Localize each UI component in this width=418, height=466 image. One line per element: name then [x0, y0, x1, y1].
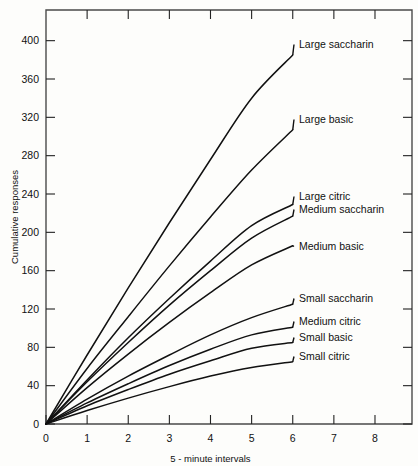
x-axis-tick-label: 4: [208, 432, 214, 444]
x-axis-tick-label: 8: [372, 432, 378, 444]
y-axis-tick-label: 320: [21, 111, 39, 123]
series-label: Large saccharin: [299, 38, 374, 50]
series-label: Medium basic: [299, 240, 364, 252]
series-leader-line: [293, 210, 294, 217]
series-medium-saccharin: Medium saccharin: [46, 203, 384, 424]
series-leader-line: [293, 120, 294, 130]
series-label: Small citric: [299, 350, 350, 362]
chart-canvas: 040801201602002402803203604000123456785 …: [0, 0, 418, 466]
y-axis-tick-label: 200: [21, 226, 39, 238]
series-leader-line: [293, 338, 294, 343]
x-axis-tick-label: 7: [331, 432, 337, 444]
y-axis-tick-label: 160: [21, 264, 39, 276]
series-label: Small basic: [299, 331, 353, 343]
y-axis-tick-label: 360: [21, 73, 39, 85]
series-large-citric: Large citric: [46, 190, 350, 424]
series-leader-line: [293, 322, 294, 328]
series-curve: [46, 246, 293, 424]
series-label: Large basic: [299, 113, 353, 125]
y-axis-tick-label: 240: [21, 188, 39, 200]
y-axis-tick-label: 280: [21, 149, 39, 161]
cumulative-response-chart: 040801201602002402803203604000123456785 …: [0, 0, 418, 466]
series-small-citric: Small citric: [46, 350, 350, 424]
series-leader-line: [293, 197, 294, 205]
y-axis-tick-label: 80: [27, 341, 39, 353]
series-leader-line: [293, 246, 294, 247]
series-curve: [46, 216, 293, 424]
y-axis-tick-label: 0: [33, 418, 39, 430]
y-axis-tick-label: 40: [27, 379, 39, 391]
series-leader-line: [293, 45, 294, 56]
series-label: Large citric: [299, 190, 350, 202]
series-curve: [46, 130, 293, 424]
series-label: Medium saccharin: [299, 203, 384, 215]
plot-frame: [46, 10, 412, 424]
y-axis-tick-label: 120: [21, 303, 39, 315]
y-axis-title: Cumulative responses: [9, 170, 20, 264]
x-axis-tick-label: 0: [43, 432, 49, 444]
series-label: Medium citric: [299, 315, 361, 327]
x-axis-tick-label: 3: [166, 432, 172, 444]
series-curve: [46, 362, 293, 424]
y-axis-tick-label: 400: [21, 34, 39, 46]
series-curve: [46, 55, 293, 424]
x-axis-title: 5 - minute intervals: [170, 453, 251, 464]
series-label: Small saccharin: [299, 292, 373, 304]
x-axis-tick-label: 5: [249, 432, 255, 444]
x-axis-tick-label: 1: [84, 432, 90, 444]
series-leader-line: [293, 357, 294, 362]
series-large-saccharin: Large saccharin: [46, 38, 374, 424]
series-leader-line: [293, 299, 294, 305]
x-axis-tick-label: 2: [125, 432, 131, 444]
series-curve: [46, 327, 293, 424]
x-axis-tick-label: 6: [290, 432, 296, 444]
